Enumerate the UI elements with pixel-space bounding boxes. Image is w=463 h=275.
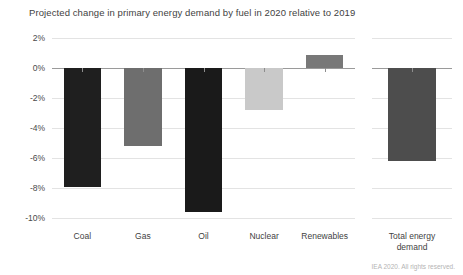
bar-oil [185,68,223,212]
gridline [52,38,355,39]
axis-tick [264,68,265,72]
x-axis-label: Renewables [294,231,355,242]
x-axis-label: Oil [173,231,234,242]
bar-gas [124,68,162,146]
axis-tick [412,68,413,72]
copyright-credit: IEA 2020. All rights reserved. [372,263,455,270]
x-axis-label: Gas [113,231,174,242]
gridline [372,38,452,39]
gridline [52,218,355,219]
gridline [372,188,452,189]
y-axis-tick-label: -2% [30,93,45,103]
plot-panel-total [372,38,452,218]
bar-total-energy-demand [388,68,436,161]
y-axis-tick-label: -8% [30,183,45,193]
bar-renewables [306,55,344,69]
axis-tick [204,68,205,72]
axis-tick [82,68,83,72]
y-axis-tick-label: -10% [25,213,45,223]
y-axis-tick-label: -4% [30,123,45,133]
x-axis-label: Nuclear [234,231,295,242]
bar-coal [64,68,102,187]
chart-title: Projected change in primary energy deman… [29,7,355,18]
y-axis-tick-label: 2% [33,33,45,43]
y-axis: 2%0%-2%-4%-6%-8%-10% [0,38,45,218]
bar-nuclear [245,68,283,110]
x-axis-label: Coal [52,231,113,242]
axis-tick [325,68,326,72]
plot-panel-fuels [52,38,355,218]
x-axis-label: Total energy demand [372,231,452,253]
axis-tick [143,68,144,72]
y-axis-tick-label: -6% [30,153,45,163]
chart-container: Projected change in primary energy deman… [0,0,463,275]
y-axis-tick-label: 0% [33,63,45,73]
gridline [372,218,452,219]
